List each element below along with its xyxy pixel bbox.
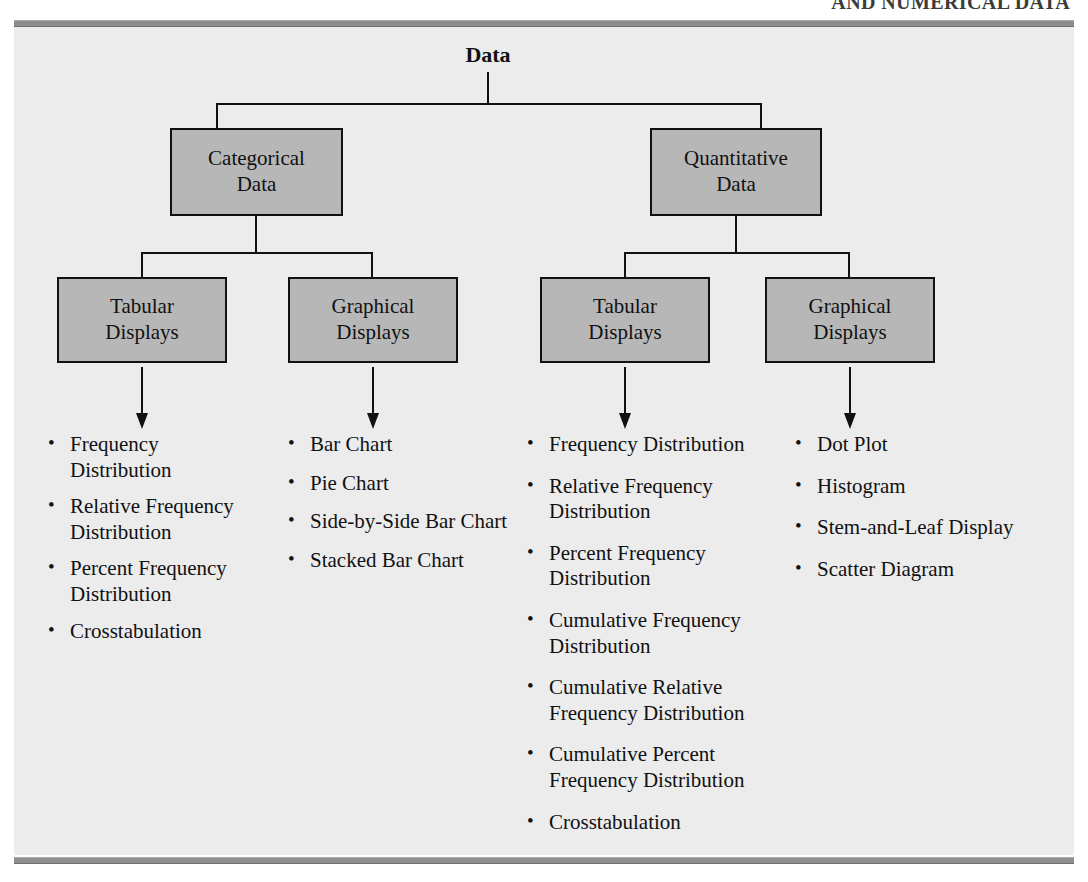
list-item: Bar Chart	[288, 432, 518, 458]
connector-categorical-to-graphical	[371, 252, 373, 279]
list-categorical-tabular: Frequency Distribution Relative Frequenc…	[48, 432, 263, 655]
root-node-label: Data	[418, 42, 558, 68]
arrow-shaft	[141, 367, 143, 417]
node-quantitative-data: Quantitative Data	[650, 128, 822, 216]
list-item: Frequency Distribution	[48, 432, 263, 483]
arrow-shaft	[624, 367, 626, 417]
list-item: Dot Plot	[795, 432, 1050, 458]
list-item: Relative Frequency Distribution	[527, 474, 777, 525]
running-head: AND NUMERICAL DATA	[600, 0, 1070, 11]
connector-quantitative-stem	[735, 214, 737, 254]
node-quantitative-data-line1: Quantitative	[684, 146, 788, 172]
connector-categorical-to-tabular	[141, 252, 143, 279]
arrow-head	[367, 413, 379, 429]
list-item: Crosstabulation	[48, 619, 263, 645]
list-item: Relative Frequency Distribution	[48, 494, 263, 545]
list-item: Histogram	[795, 474, 1050, 500]
connector-root-stem	[487, 72, 489, 104]
node-categorical-tabular-line1: Tabular	[105, 294, 179, 320]
list-quantitative-graphical: Dot Plot Histogram Stem-and-Leaf Display…	[795, 432, 1050, 598]
node-categorical-tabular-line2: Displays	[105, 320, 179, 346]
arrow-down-icon-categorical-tabular	[135, 367, 149, 429]
arrow-down-icon-quantitative-tabular	[618, 367, 632, 429]
connector-root-to-quantitative	[760, 103, 762, 130]
node-categorical-data: Categorical Data	[170, 128, 343, 216]
list-item: Pie Chart	[288, 471, 518, 497]
list-item: Stem-and-Leaf Display	[795, 515, 1050, 541]
arrow-down-icon-categorical-graphical	[366, 367, 380, 429]
node-categorical-graphical-line1: Graphical	[332, 294, 415, 320]
arrow-down-icon-quantitative-graphical	[843, 367, 857, 429]
connector-quantitative-bus	[624, 252, 850, 254]
list-item: Scatter Diagram	[795, 557, 1050, 583]
list-item: Side-by-Side Bar Chart	[288, 509, 518, 535]
arrow-head	[844, 413, 856, 429]
node-quantitative-graphical-line2: Displays	[809, 320, 892, 346]
bottom-rule	[14, 857, 1074, 864]
node-categorical-graphical-displays: Graphical Displays	[288, 277, 458, 363]
node-quantitative-tabular-line2: Displays	[588, 320, 662, 346]
list-quantitative-tabular: Frequency Distribution Relative Frequenc…	[527, 432, 777, 851]
list-item: Crosstabulation	[527, 810, 777, 836]
list-item: Cumulative Frequency Distribution	[527, 608, 777, 659]
node-categorical-data-line2: Data	[208, 172, 305, 198]
connector-quantitative-to-tabular	[624, 252, 626, 279]
list-item: Frequency Distribution	[527, 432, 777, 458]
node-categorical-graphical-line2: Displays	[332, 320, 415, 346]
list-categorical-graphical: Bar Chart Pie Chart Side-by-Side Bar Cha…	[288, 432, 518, 586]
node-quantitative-tabular-displays: Tabular Displays	[540, 277, 710, 363]
connector-categorical-bus	[141, 252, 373, 254]
connector-root-bus	[216, 103, 762, 105]
node-categorical-tabular-displays: Tabular Displays	[57, 277, 227, 363]
list-item: Percent Frequency Distribution	[48, 556, 263, 607]
figure-frame: AND NUMERICAL DATA Data Categorical Data…	[0, 0, 1088, 882]
node-quantitative-tabular-line1: Tabular	[588, 294, 662, 320]
list-item: Percent Frequency Distribution	[527, 541, 777, 592]
arrow-head	[136, 413, 148, 429]
arrow-shaft	[372, 367, 374, 417]
node-quantitative-data-line2: Data	[684, 172, 788, 198]
list-item: Stacked Bar Chart	[288, 548, 518, 574]
arrow-shaft	[849, 367, 851, 417]
connector-quantitative-to-graphical	[848, 252, 850, 279]
connector-categorical-stem	[255, 214, 257, 254]
node-categorical-data-line1: Categorical	[208, 146, 305, 172]
list-item: Cumulative Percent Frequency Distributio…	[527, 742, 777, 793]
list-item: Cumulative Relative Frequency Distributi…	[527, 675, 777, 726]
arrow-head	[619, 413, 631, 429]
node-quantitative-graphical-displays: Graphical Displays	[765, 277, 935, 363]
node-quantitative-graphical-line1: Graphical	[809, 294, 892, 320]
top-rule	[14, 20, 1074, 27]
connector-root-to-categorical	[216, 103, 218, 130]
